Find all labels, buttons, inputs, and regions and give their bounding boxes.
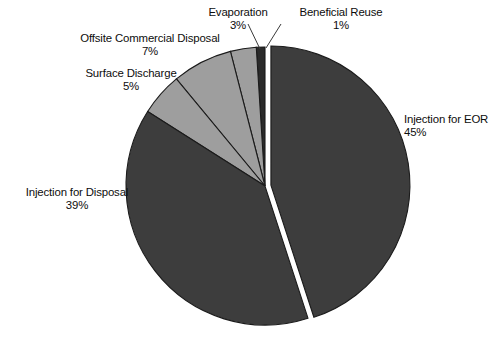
slice-label-injection-for-eor: Injection for EOR 45% xyxy=(404,113,493,139)
slice-label-surface-discharge: Surface Discharge 5% xyxy=(55,67,207,93)
slice-label-injection-for-disposal: Injection for Disposal 39% xyxy=(2,186,152,212)
slice-label-evaporation: Evaporation 3% xyxy=(186,6,290,32)
slice-label-name: Injection for EOR xyxy=(404,113,493,126)
slice-label-value: 7% xyxy=(52,45,248,58)
slice-label-value: 39% xyxy=(2,199,152,212)
slice-label-value: 3% xyxy=(186,19,290,32)
slice-label-value: 5% xyxy=(55,80,207,93)
pie-chart: Beneficial Reuse 1% Evaporation 3% Offsi… xyxy=(0,0,493,340)
slice-label-name: Evaporation xyxy=(186,6,290,19)
slice-label-name: Beneficial Reuse xyxy=(279,6,403,19)
slice-label-beneficial-reuse: Beneficial Reuse 1% xyxy=(279,6,403,32)
slice-label-name: Offsite Commercial Disposal xyxy=(52,32,248,45)
slice-label-name: Injection for Disposal xyxy=(2,186,152,199)
slice-label-offsite-commercial-disposal: Offsite Commercial Disposal 7% xyxy=(52,32,248,58)
slice-label-value: 1% xyxy=(279,19,403,32)
slice-label-name: Surface Discharge xyxy=(55,67,207,80)
slice-label-value: 45% xyxy=(404,126,493,139)
